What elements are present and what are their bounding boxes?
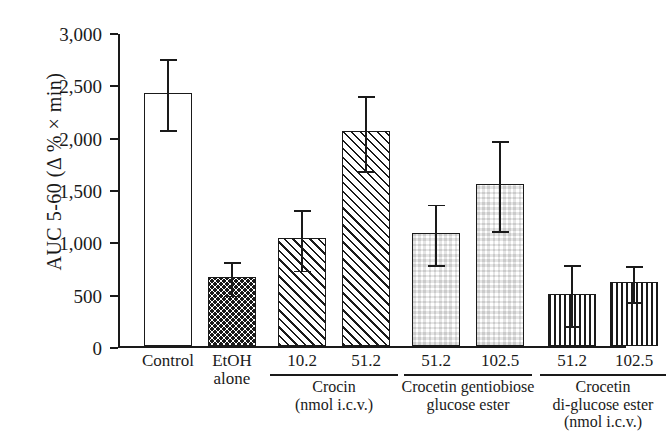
group-units: (nmol i.c.v.): [500, 413, 670, 431]
y-tick-label: 1,500: [14, 182, 102, 201]
group-rule-1: [404, 374, 532, 376]
error-bar-cap-6-lower: [564, 326, 581, 328]
error-bar-cap-6-upper: [564, 265, 581, 267]
y-tick-label: 500: [14, 287, 102, 306]
error-bar-cap-7-upper: [626, 266, 643, 268]
y-tick-label: 0: [14, 339, 102, 358]
y-tick-label: 2,000: [14, 130, 102, 149]
group-rule-2: [540, 374, 666, 376]
y-tick: [110, 242, 118, 244]
error-bar-cap-0-upper: [160, 59, 177, 61]
error-bar-cap-2-lower: [294, 271, 311, 273]
error-bar-stem-4: [435, 205, 437, 266]
error-bar-cap-4-upper: [428, 205, 445, 207]
error-bar-cap-7-lower: [626, 302, 643, 304]
error-bar-stem-0: [167, 59, 169, 130]
error-bar-stem-7: [633, 266, 635, 302]
y-tick-label: 3,000: [14, 25, 102, 44]
error-bar-cap-1-upper: [224, 262, 241, 264]
group-caption-2: Crocetindi-glucose ester(nmol i.c.v.): [500, 378, 670, 431]
error-bar-cap-5-lower: [492, 231, 509, 233]
error-bar-cap-3-upper: [358, 96, 375, 98]
group-rule-0: [270, 374, 398, 376]
error-bar-stem-5: [499, 141, 501, 231]
group-name: Crocetin: [500, 378, 670, 396]
y-tick: [110, 138, 118, 140]
y-tick-label: 1,000: [14, 234, 102, 253]
error-bar-stem-3: [365, 96, 367, 171]
y-tick: [110, 33, 118, 35]
x-axis-line: [118, 346, 626, 348]
error-bar-cap-5-upper: [492, 141, 509, 143]
y-tick: [110, 347, 118, 349]
error-bar-stem-2: [301, 210, 303, 271]
error-bar-stem-1: [231, 262, 233, 295]
y-axis-title: AUC 5-60 (Δ % × min): [43, 22, 66, 322]
x-label-7: 102.5: [574, 352, 670, 370]
error-bar-cap-4-lower: [428, 265, 445, 267]
y-tick: [110, 295, 118, 297]
error-bar-stem-6: [571, 265, 573, 326]
error-bar-cap-1-lower: [224, 296, 241, 298]
y-tick: [110, 85, 118, 87]
y-tick: [110, 190, 118, 192]
x-label-line1: 102.5: [574, 352, 670, 370]
group-name-line2: di-glucose ester: [500, 396, 670, 414]
y-tick-label: 2,500: [14, 77, 102, 96]
error-bar-cap-2-upper: [294, 210, 311, 212]
y-axis-line: [118, 34, 120, 348]
plot-area: 05001,0001,5002,0002,5003,000: [118, 34, 626, 348]
error-bar-cap-3-lower: [358, 171, 375, 173]
error-bar-cap-0-lower: [160, 130, 177, 132]
